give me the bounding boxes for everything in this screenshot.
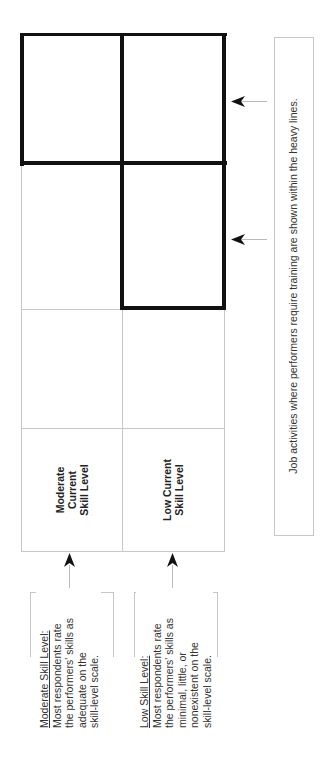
arrow-low-line [172, 565, 173, 588]
row-label-line: Moderate [54, 440, 66, 540]
note-line: nonexistent on the [188, 588, 201, 728]
note-line: adequate on the [76, 588, 89, 728]
note-line: skill-level scale. [201, 588, 214, 728]
note-title: Moderate Skill Level: [38, 588, 51, 728]
note-title: Low Skill Level: [138, 588, 151, 728]
row-label-line: Skill Level [173, 440, 185, 540]
arrow-moderate-line [69, 565, 70, 588]
heavy-middle-v [120, 33, 124, 310]
note-line: the performers' skills as [163, 588, 176, 728]
row-label-line: Low Current [161, 440, 173, 540]
note-line: minimal, little, or [176, 588, 189, 728]
grid-left-edge [21, 163, 22, 552]
heavy-left [20, 33, 24, 166]
arrow-left-icon [231, 234, 245, 245]
heavy-bottom [120, 306, 226, 310]
note-moderate: Moderate Skill Level: Most respondents r… [36, 588, 101, 728]
grid-right-edge [224, 307, 225, 552]
row-label-moderate: Moderate Current Skill Level [42, 440, 102, 540]
heavy-right [222, 33, 226, 310]
arrow-up-icon [167, 553, 178, 567]
grid-row-line-2 [21, 428, 225, 429]
note-low: Low Skill Level: Most respondents rate t… [136, 588, 213, 728]
note-line: the performers' skills as [63, 588, 76, 728]
row-label-line: Skill Level [78, 440, 90, 540]
note-line: Most respondents rate [151, 588, 164, 728]
grid-middle-line [122, 307, 123, 552]
grid-bottom-edge [21, 551, 225, 552]
row-label-low: Low Current Skill Level [143, 440, 203, 540]
footnote-text: Job activities where performers require … [285, 36, 301, 536]
arrow-left-icon [231, 96, 245, 107]
arrow-up-icon [64, 553, 75, 567]
note-line: skill-level scale. [88, 588, 101, 728]
row-label-line: Current [66, 440, 78, 540]
note-line: Most respondents rate [51, 588, 64, 728]
